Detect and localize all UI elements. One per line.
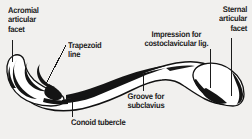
sternal-end	[193, 63, 244, 106]
label-groove-for-subclavius: Groove for subclavius	[127, 92, 164, 111]
label-acromial-articular-facet: Acromial articular facet	[8, 6, 39, 34]
label-impression-for-costoclavicular-ligament: Impression for costoclavicular lig.	[144, 30, 208, 49]
acromial-end	[7, 55, 64, 106]
label-sternal-articular-facet: Sternal articular facet	[219, 5, 247, 33]
label-trapezoid-line: Trapezoid line	[68, 41, 101, 60]
clavicle-anatomy-figure: Acromial articular facet Sternal articul…	[0, 0, 252, 139]
label-conoid-tubercle: Conoid tubercle	[71, 118, 125, 127]
